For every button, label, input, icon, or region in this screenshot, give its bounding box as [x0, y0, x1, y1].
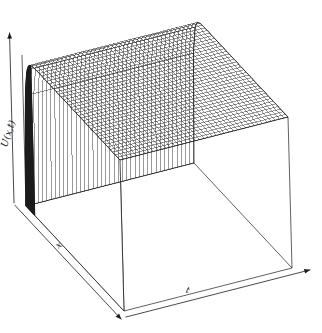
axis-arrow-t [126, 269, 311, 317]
surface-plot-canvas [0, 0, 322, 333]
surface-plot-figure: U(x,t) x t [0, 0, 322, 333]
surface-skirt [25, 65, 124, 311]
